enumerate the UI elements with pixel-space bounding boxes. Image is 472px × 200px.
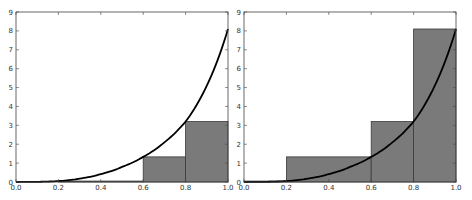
y-tick-label: 9 (237, 9, 241, 17)
y-tick-label: 1 (237, 160, 241, 168)
riemann-bar (371, 122, 413, 182)
riemann-bar (143, 157, 185, 182)
y-tick-label: 1 (9, 160, 13, 168)
y-tick-label: 5 (237, 84, 241, 92)
x-tick-label: 0.2 (281, 184, 292, 192)
left-plot-panel: 0.00.20.40.60.81.00123456789 (0, 0, 236, 200)
riemann-bar (186, 122, 228, 182)
y-tick-label: 7 (237, 46, 241, 54)
y-tick-label: 8 (9, 27, 13, 35)
riemann-bar (286, 157, 371, 182)
y-tick-label: 5 (9, 84, 13, 92)
y-tick-label: 2 (9, 141, 13, 149)
x-tick-label: 0.8 (408, 184, 419, 192)
x-tick-label: 0.6 (366, 184, 378, 192)
y-tick-label: 3 (237, 122, 241, 130)
y-tick-label: 4 (9, 103, 14, 111)
figure: 0.00.20.40.60.81.00123456789 0.00.20.40.… (0, 0, 472, 200)
y-tick-label: 0 (9, 179, 13, 187)
x-tick-label: 1.0 (450, 184, 461, 192)
y-tick-label: 0 (237, 179, 241, 187)
x-tick-label: 0.4 (323, 184, 335, 192)
right-plot-panel: 0.00.20.40.60.81.00123456789 (228, 0, 472, 200)
riemann-bar (414, 29, 456, 182)
y-tick-label: 9 (9, 9, 13, 17)
y-tick-label: 4 (237, 103, 242, 111)
y-tick-label: 6 (237, 65, 242, 73)
y-tick-label: 7 (9, 46, 13, 54)
x-tick-label: 0.8 (180, 184, 191, 192)
y-tick-label: 3 (9, 122, 13, 130)
right-riemann-plot: 0.00.20.40.60.81.00123456789 (228, 0, 472, 200)
y-tick-label: 6 (9, 65, 14, 73)
x-tick-label: 0.4 (95, 184, 107, 192)
x-tick-label: 0.2 (53, 184, 64, 192)
left-riemann-plot: 0.00.20.40.60.81.00123456789 (0, 0, 236, 200)
bars (58, 122, 228, 182)
x-tick-label: 0.6 (138, 184, 150, 192)
y-tick-label: 2 (237, 141, 241, 149)
y-tick-label: 8 (237, 27, 241, 35)
